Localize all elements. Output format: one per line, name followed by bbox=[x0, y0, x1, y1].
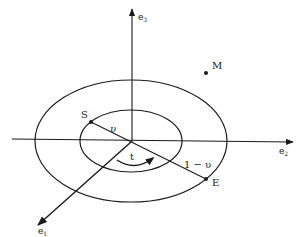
rotation-arrow-icon bbox=[117, 158, 153, 166]
label-e2: e2 bbox=[279, 146, 288, 157]
orbit-diagram: e3 e2 e1 S E M υ 1 − υ t bbox=[0, 0, 298, 237]
label-s: S bbox=[81, 109, 88, 120]
label-t: t bbox=[130, 151, 134, 162]
label-upsilon: υ bbox=[110, 123, 116, 134]
label-m: M bbox=[212, 60, 222, 71]
axis-e2 bbox=[12, 139, 293, 142]
point-m bbox=[204, 71, 208, 75]
point-s bbox=[89, 120, 93, 124]
label-e: E bbox=[212, 177, 219, 188]
point-e bbox=[204, 177, 208, 181]
label-e1: e1 bbox=[38, 226, 47, 237]
label-one-minus-upsilon: 1 − υ bbox=[184, 159, 211, 170]
label-e3: e3 bbox=[138, 12, 147, 23]
